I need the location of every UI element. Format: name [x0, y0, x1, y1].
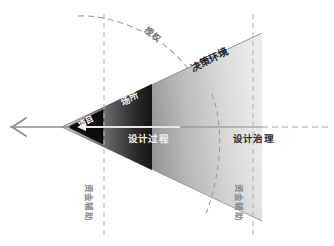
diagram-svg	[0, 0, 334, 246]
authorization-arc	[78, 16, 190, 72]
diagram-canvas: 项目 场所 决策环境 设计过程 设计治理 授权 资金辅助 资金辅助	[0, 0, 334, 246]
